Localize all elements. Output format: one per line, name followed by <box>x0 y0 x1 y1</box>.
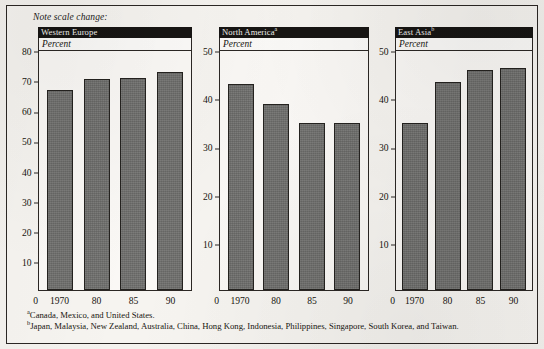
footnote-b: bJapan, Malaysia, New Zealand, Australia… <box>27 321 459 332</box>
plot-area <box>38 50 192 291</box>
panel-unit-bar: Percent <box>219 38 369 50</box>
y-axis-1: 10203040506070800 <box>11 50 38 291</box>
panel-title-bar: Western Europe <box>38 27 192 38</box>
y-tick-label: 10 <box>22 256 38 267</box>
x-tick-label: 80 <box>435 295 461 306</box>
footnote-a-text: Canada, Mexico, and United States. <box>30 310 155 320</box>
y-tick-label: 30 <box>379 142 395 153</box>
bar-85[interactable] <box>299 123 325 290</box>
panel-title: Western Europe <box>41 27 97 38</box>
y-tick-label: 50 <box>379 46 395 57</box>
footnote-b-text: Japan, Malaysia, New Zealand, Australia,… <box>30 321 458 331</box>
scale-change-note: Note scale change: <box>33 12 108 22</box>
y-tick-label: 40 <box>22 166 38 177</box>
panel-unit-bar: Percent <box>395 38 533 50</box>
bar-group <box>39 51 191 290</box>
panel-unit-label: Percent <box>223 38 252 51</box>
bar-80[interactable] <box>263 104 289 290</box>
figure-frame: Note scale change: 10203040506070800West… <box>6 5 538 344</box>
y-tick-label: 50 <box>203 46 219 57</box>
bar-1970[interactable] <box>47 90 73 290</box>
y-tick-label: 50 <box>22 136 38 147</box>
y-tick-label: 80 <box>22 46 38 57</box>
panel-title: East Asiab <box>398 27 434 38</box>
y-axis-2: 10203040500 <box>193 50 219 291</box>
y-tick-label: 10 <box>203 238 219 249</box>
y-tick-label: 20 <box>203 190 219 201</box>
y-tick-label: 30 <box>22 196 38 207</box>
x-tick-label: 85 <box>468 295 494 306</box>
x-tick-label: 1970 <box>402 295 428 306</box>
x-axis-3: 1970808590 <box>395 295 533 306</box>
panel-unit-label: Percent <box>399 38 428 51</box>
footnotes: aCanada, Mexico, and United States. bJap… <box>27 310 459 333</box>
y-tick-label: 40 <box>379 94 395 105</box>
bar-90[interactable] <box>334 123 360 290</box>
x-tick-label: 1970 <box>227 295 253 306</box>
y-tick-label: 10 <box>379 238 395 249</box>
y-tick-label: 70 <box>22 76 38 87</box>
x-tick-label: 85 <box>299 295 325 306</box>
panel-unit-label: Percent <box>42 38 71 51</box>
x-axis-2: 1970808590 <box>219 295 369 306</box>
y-axis-3: 10203040500 <box>370 50 395 291</box>
y-tick-label: 20 <box>379 190 395 201</box>
panel-title: North Americaa <box>222 27 277 38</box>
footnote-a: aCanada, Mexico, and United States. <box>27 310 459 321</box>
chart-panel-3: East AsiabPercent <box>395 27 533 291</box>
bar-80[interactable] <box>84 79 110 290</box>
x-tick-label: 90 <box>335 295 361 306</box>
bar-1970[interactable] <box>402 123 428 290</box>
panel-title-bar: East Asiab <box>395 27 533 38</box>
chart-panel-2: North AmericaaPercent <box>219 27 369 291</box>
bar-80[interactable] <box>435 82 461 290</box>
x-axis-1: 1970808590 <box>38 295 192 306</box>
y-tick-label: 30 <box>203 142 219 153</box>
bar-85[interactable] <box>120 78 146 290</box>
x-tick-label: 90 <box>158 295 184 306</box>
y-tick-label: 40 <box>203 94 219 105</box>
plot-area <box>395 50 533 291</box>
x-tick-label: 80 <box>84 295 110 306</box>
x-tick-label: 90 <box>501 295 527 306</box>
bar-1970[interactable] <box>228 84 254 290</box>
panel-unit-bar: Percent <box>38 38 192 50</box>
chart-panel-1: Western EuropePercent <box>38 27 192 291</box>
x-tick-label: 85 <box>121 295 147 306</box>
y-tick-label: 60 <box>22 106 38 117</box>
panel-title-footnote-marker: b <box>431 26 434 32</box>
figure-root: Note scale change: 10203040506070800West… <box>0 0 544 349</box>
bar-group <box>220 51 368 290</box>
bar-group <box>396 51 532 290</box>
x-tick-label: 80 <box>263 295 289 306</box>
bar-85[interactable] <box>467 70 493 290</box>
panel-title-bar: North Americaa <box>219 27 369 38</box>
x-tick-label: 1970 <box>47 295 73 306</box>
plot-area <box>219 50 369 291</box>
panel-title-footnote-marker: a <box>275 26 278 32</box>
bar-90[interactable] <box>500 68 526 290</box>
y-tick-label: 20 <box>22 226 38 237</box>
bar-90[interactable] <box>157 72 183 290</box>
